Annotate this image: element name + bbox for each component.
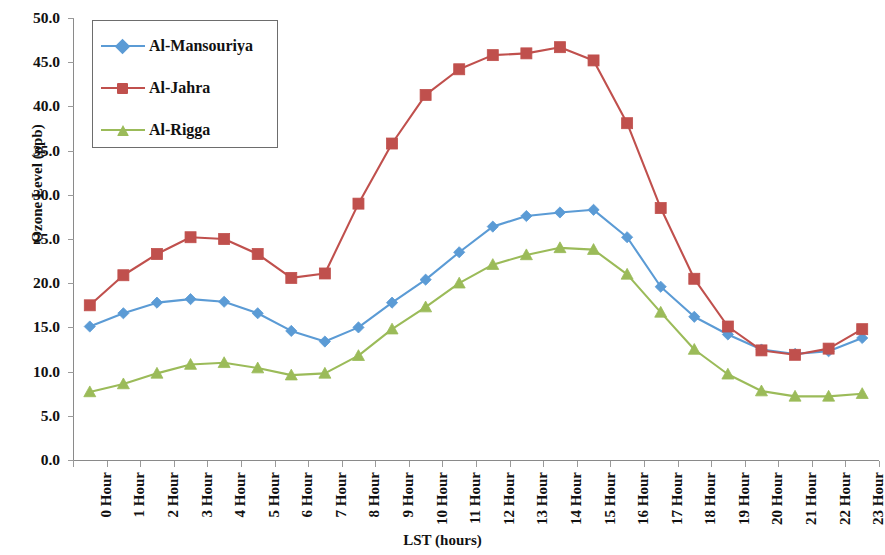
legend-item-label: Al-Jahra	[149, 79, 210, 97]
chart-legend: Al-MansouriyaAl-JahraAl-Rigga	[92, 20, 278, 148]
legend-item-al-jahra[interactable]: Al-Jahra	[101, 77, 210, 99]
legend-item-label: Al-Rigga	[149, 121, 210, 139]
ozone-line-chart: Ozone Level (ppb) 0.05.010.015.020.025.0…	[0, 0, 885, 555]
legend-item-al-mansouriya[interactable]: Al-Mansouriya	[101, 35, 253, 57]
legend-swatch-icon	[101, 122, 145, 138]
legend-item-label: Al-Mansouriya	[149, 37, 253, 55]
x-axis-title: LST (hours)	[0, 532, 885, 549]
legend-swatch-icon	[101, 38, 145, 54]
legend-swatch-icon	[101, 80, 145, 96]
legend-item-al-rigga[interactable]: Al-Rigga	[101, 119, 210, 141]
